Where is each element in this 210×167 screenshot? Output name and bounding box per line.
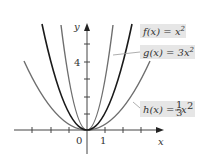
x-axis-arrow-icon xyxy=(156,127,164,133)
label-g-exp: 2 xyxy=(189,46,195,54)
label-f: f(x) = x2 xyxy=(140,24,186,38)
label-g: g(x) = 3x2 xyxy=(140,45,195,59)
label-f-text: f(x) = x xyxy=(142,26,181,37)
svg-text:f(x) = x2: f(x) = x2 xyxy=(142,25,186,37)
chart: 0 1 x 4 y f(x) = x2 g(x) = 3x2 xyxy=(0,0,210,167)
y-tick-label-4: 4 xyxy=(74,57,80,68)
y-axis-arrow-icon xyxy=(84,23,90,31)
label-h: h(x) = 1 3 x 2 xyxy=(140,99,195,118)
leader-g xyxy=(113,52,140,55)
origin-label: 0 xyxy=(76,135,82,146)
leader-h xyxy=(133,102,140,108)
x-tick-label-1: 1 xyxy=(100,135,106,146)
svg-text:g(x) = 3x2: g(x) = 3x2 xyxy=(143,46,195,58)
label-f-exp: 2 xyxy=(180,25,186,33)
x-axis-label: x xyxy=(158,136,164,147)
label-h-exp: 2 xyxy=(187,100,193,111)
label-g-text: g(x) = 3x xyxy=(143,47,190,58)
label-h-text: h(x) = xyxy=(143,104,174,115)
y-axis-label: y xyxy=(73,21,80,32)
